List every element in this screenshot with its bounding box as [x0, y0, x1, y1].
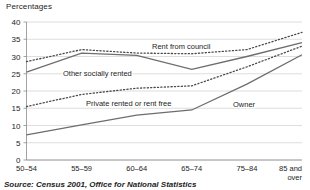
x-category-label: 65–74: [181, 164, 202, 173]
x-category-label: 50–54: [16, 164, 37, 173]
x-category-label: 55–59: [71, 164, 92, 173]
series-annotation-rent-from-council: Rent from council: [152, 42, 211, 51]
y-tick-label: 20: [12, 87, 21, 96]
y-tick-label: 40: [12, 18, 21, 27]
y-tick-label: 10: [12, 122, 21, 131]
x-category-label: 60–64: [126, 164, 147, 173]
y-tick-label: 30: [12, 53, 21, 62]
y-tick-labels-group: 0510152025303540: [12, 18, 21, 165]
y-tick-label: 15: [12, 104, 21, 113]
chart-container: Percentages 0510152025303540 50–5455–596…: [0, 0, 310, 190]
line-chart-plot: 0510152025303540 50–5455–5960–6465–7475–…: [0, 0, 310, 190]
series-annotation-private-rented-or-rent-free: Private rented or rent free: [86, 99, 171, 108]
series-annotation-other-socially-rented: Other socially rented: [63, 69, 132, 78]
y-tick-label: 35: [12, 35, 21, 44]
x-category-label: 75–84: [236, 164, 257, 173]
x-category-label-line2: over: [287, 173, 302, 182]
y-tick-marks-group: [24, 22, 27, 160]
series-annotations-group: Rent from councilRent from councilOther …: [63, 42, 256, 109]
y-tick-label: 25: [12, 70, 21, 79]
series-annotation-owner: Owner: [233, 100, 256, 109]
y-tick-label: 5: [16, 139, 21, 148]
x-category-label: 85 and: [279, 164, 302, 173]
source-note: Source: Census 2001, Office for National…: [4, 180, 196, 189]
series-line: [27, 55, 303, 135]
